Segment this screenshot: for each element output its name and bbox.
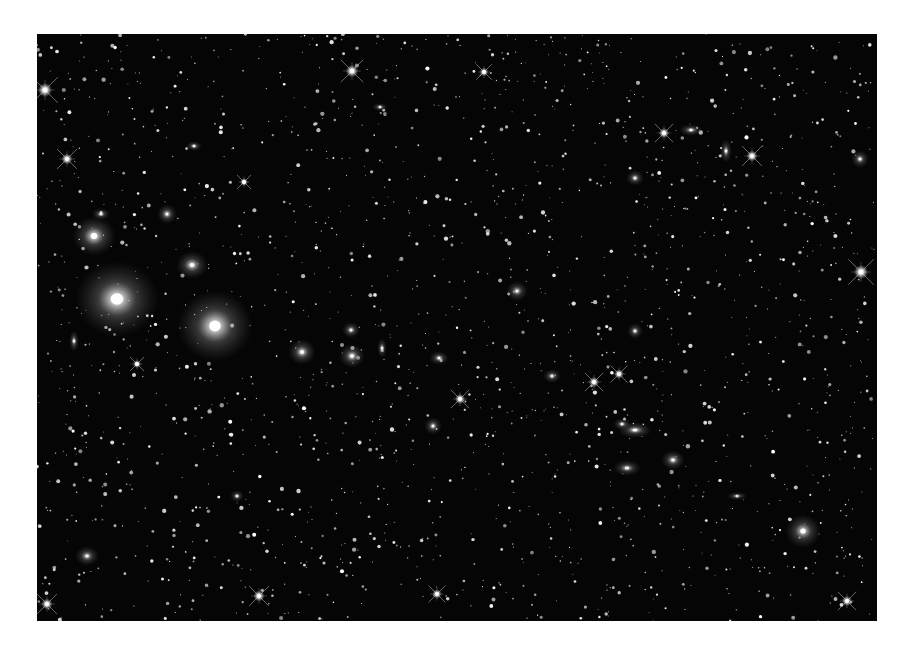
star: [813, 335, 815, 337]
star: [97, 567, 99, 569]
star: [495, 431, 496, 432]
star: [687, 267, 690, 270]
star: [195, 436, 196, 437]
star: [741, 435, 744, 438]
star: [315, 246, 319, 250]
star: [83, 56, 84, 57]
star: [812, 200, 814, 202]
star: [518, 312, 520, 314]
star: [846, 93, 847, 94]
star: [268, 613, 269, 614]
star: [107, 114, 108, 115]
star: [649, 325, 653, 329]
star: [745, 373, 748, 376]
star: [425, 333, 426, 334]
star: [700, 384, 702, 386]
star: [504, 345, 508, 349]
star: [432, 522, 433, 523]
star: [833, 55, 837, 59]
star: [278, 274, 279, 275]
star: [487, 273, 488, 274]
star: [769, 377, 772, 380]
star: [566, 414, 567, 415]
star: [166, 602, 169, 605]
star: [607, 295, 610, 298]
star: [508, 80, 510, 82]
star: [507, 412, 508, 413]
star: [394, 97, 395, 98]
star: [251, 306, 252, 307]
star: [64, 289, 65, 290]
star: [88, 136, 89, 137]
star: [631, 38, 632, 39]
star: [252, 208, 256, 212]
star: [318, 617, 321, 620]
star: [559, 512, 560, 513]
star: [676, 69, 678, 71]
star: [277, 508, 280, 511]
star: [422, 538, 423, 539]
star: [330, 418, 332, 420]
star: [711, 407, 712, 408]
star: [69, 365, 71, 367]
star: [650, 586, 652, 588]
star: [861, 557, 862, 558]
star: [674, 291, 676, 293]
star: [495, 173, 497, 175]
star: [440, 617, 442, 619]
star: [684, 208, 686, 210]
star: [617, 311, 618, 312]
star: [556, 99, 559, 102]
star: [793, 94, 796, 97]
star: [74, 448, 76, 450]
star: [255, 445, 256, 446]
star: [166, 558, 168, 560]
star: [736, 609, 737, 610]
star: [578, 563, 579, 564]
star: [61, 294, 64, 297]
star: [713, 180, 716, 183]
star: [725, 519, 727, 521]
star: [719, 61, 723, 65]
star: [803, 89, 804, 90]
star: [598, 521, 602, 525]
star: [92, 520, 93, 521]
star: [743, 99, 744, 100]
star: [94, 98, 95, 99]
star: [844, 450, 847, 453]
star: [381, 456, 384, 459]
star: [299, 509, 301, 511]
star: [782, 360, 785, 363]
star: [508, 507, 511, 510]
star: [754, 271, 755, 272]
star: [609, 45, 610, 46]
star: [233, 252, 236, 255]
star: [417, 566, 418, 567]
star: [279, 616, 283, 620]
star: [847, 222, 850, 225]
star: [420, 578, 421, 579]
star: [103, 483, 107, 487]
star: [795, 212, 797, 214]
star: [227, 403, 228, 404]
star: [871, 247, 872, 248]
star: [329, 40, 333, 44]
star: [863, 302, 867, 306]
star: [208, 483, 209, 484]
star: [751, 78, 752, 79]
star: [845, 504, 847, 506]
star: [532, 409, 533, 410]
galaxy-core: [671, 459, 675, 462]
star: [659, 308, 660, 309]
star: [449, 199, 452, 202]
star: [779, 529, 781, 531]
star: [865, 82, 867, 84]
star: [627, 451, 629, 453]
star: [452, 306, 453, 307]
star: [710, 99, 714, 103]
star: [575, 431, 578, 434]
star: [438, 157, 442, 161]
star: [724, 386, 726, 388]
star: [794, 485, 798, 489]
star: [570, 562, 572, 564]
